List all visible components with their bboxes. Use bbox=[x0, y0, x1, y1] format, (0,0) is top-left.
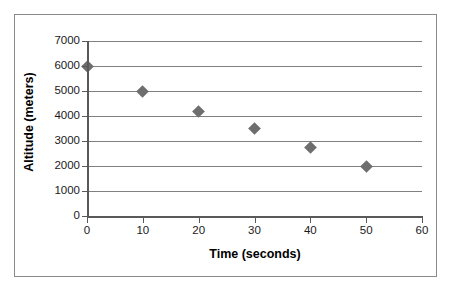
x-tick-mark bbox=[310, 217, 311, 223]
x-axis-title: Time (seconds) bbox=[87, 247, 423, 261]
gridline-3000 bbox=[87, 141, 422, 142]
x-tick-label: 40 bbox=[290, 225, 330, 237]
x-tick-label: 60 bbox=[402, 225, 442, 237]
data-point bbox=[136, 85, 149, 98]
y-tick-label: 0 bbox=[32, 210, 80, 222]
x-tick-label: 0 bbox=[67, 225, 107, 237]
y-tick-mark bbox=[82, 66, 87, 67]
y-tick-label: 5000 bbox=[32, 85, 80, 97]
x-tick-mark bbox=[199, 217, 200, 223]
gridline-7000 bbox=[87, 41, 422, 42]
y-tick-label: 7000 bbox=[32, 35, 80, 47]
data-point bbox=[248, 122, 261, 135]
plot-area bbox=[87, 41, 422, 216]
x-tick-label: 20 bbox=[179, 225, 219, 237]
y-tick-label: 4000 bbox=[32, 110, 80, 122]
x-tick-mark bbox=[143, 217, 144, 223]
chart-figure: 7000 6000 5000 4000 3000 2000 1000 0 0 1… bbox=[14, 14, 437, 277]
gridline-4000 bbox=[87, 116, 422, 117]
data-point bbox=[304, 141, 317, 154]
y-tick-label: 6000 bbox=[32, 60, 80, 72]
y-tick-label: 2000 bbox=[32, 160, 80, 172]
y-tick-mark bbox=[82, 91, 87, 92]
x-tick-mark bbox=[422, 217, 423, 223]
y-tick-label: 3000 bbox=[32, 135, 80, 147]
y-tick-mark bbox=[82, 41, 87, 42]
gridline-6000 bbox=[87, 66, 422, 67]
y-tick-label: 1000 bbox=[32, 185, 80, 197]
y-tick-mark bbox=[82, 166, 87, 167]
x-tick-mark bbox=[87, 217, 88, 223]
x-tick-mark bbox=[366, 217, 367, 223]
y-axis-line bbox=[87, 41, 89, 217]
x-tick-label: 30 bbox=[235, 225, 275, 237]
x-tick-label: 50 bbox=[346, 225, 386, 237]
y-tick-mark bbox=[82, 191, 87, 192]
x-tick-mark bbox=[255, 217, 256, 223]
y-tick-mark bbox=[82, 116, 87, 117]
gridline-1000 bbox=[87, 191, 422, 192]
x-tick-label: 10 bbox=[123, 225, 163, 237]
y-axis-title: Altitude (meters) bbox=[22, 42, 36, 202]
data-point bbox=[360, 160, 373, 173]
y-tick-mark bbox=[82, 141, 87, 142]
